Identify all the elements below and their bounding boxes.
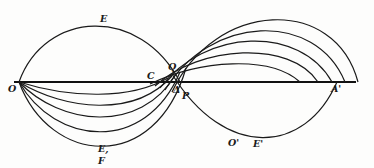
lower-curve-1 [19, 78, 168, 94]
label-E: E [99, 13, 108, 24]
diagram-canvas: O E Q C Δ P E, F O' E' A' [0, 0, 374, 168]
label-E-prime: E' [252, 138, 263, 149]
label-P: P [181, 90, 190, 101]
wave-diagram: O E Q C Δ P E, F O' E' A' [0, 0, 374, 168]
label-Q: Q [168, 61, 177, 72]
label-O: O [8, 83, 17, 94]
label-C: C [147, 70, 155, 81]
label-E1: E, [97, 143, 109, 155]
lower-arch-PA [172, 74, 337, 138]
label-F: F [97, 155, 106, 166]
label-O-prime: O' [228, 137, 239, 148]
upper-arch-OEQ [19, 26, 180, 82]
label-Delta: Δ [172, 84, 180, 95]
label-A-prime: A' [330, 83, 341, 94]
